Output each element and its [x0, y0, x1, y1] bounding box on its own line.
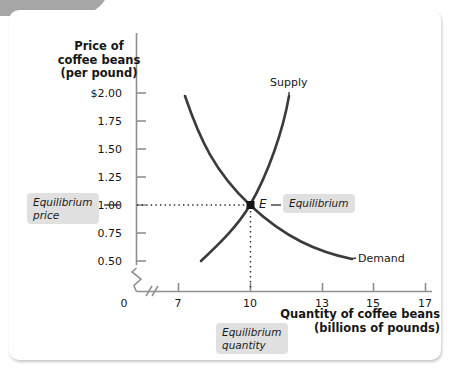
y-axis-lower-stub: [134, 286, 137, 292]
y-axis-break-mark: [132, 268, 141, 286]
x-tick-label-15: 15: [358, 298, 388, 309]
equilibrium-callout: Equilibrium: [283, 194, 355, 213]
equilibrium-price-callout: Equilibrium price: [27, 193, 99, 224]
x-tick-label-10: 10: [235, 298, 265, 309]
y-tick-label-1-25: 1.25: [66, 172, 122, 183]
x-tick-label-17: 17: [410, 298, 440, 309]
y-tick-label-1-75: 1.75: [66, 116, 122, 127]
supply-curve-label: Supply: [270, 77, 308, 88]
y-tick-label-0-50: 0.50: [66, 256, 122, 267]
equilibrium-quantity-callout: Equilibrium quantity: [216, 323, 288, 354]
demand-leader-line: [350, 258, 356, 259]
equilibrium-point-label: E: [259, 198, 267, 210]
y-tick-label-2-00: $2.00: [66, 88, 122, 99]
x-axis-title: Quantity of coffee beans (billions of po…: [276, 308, 440, 335]
x-tick-label-13: 13: [307, 298, 337, 309]
demand-curve: [185, 96, 352, 259]
x-tick-label-0: 0: [109, 298, 139, 309]
equilibrium-point-marker: [247, 201, 255, 209]
y-axis-title: Price of coffee beans (per pound): [40, 40, 158, 81]
y-tick-label-1-50: 1.50: [66, 144, 122, 155]
figure-root: Price of coffee beans (per pound) Quanti…: [0, 0, 454, 375]
y-tick-marks: [137, 93, 147, 261]
x-tick-marks: [179, 283, 426, 292]
x-tick-label-7: 7: [163, 298, 193, 309]
supply-curve: [201, 96, 289, 261]
demand-curve-label: Demand: [358, 253, 405, 264]
y-tick-label-0-75: 0.75: [66, 228, 122, 239]
